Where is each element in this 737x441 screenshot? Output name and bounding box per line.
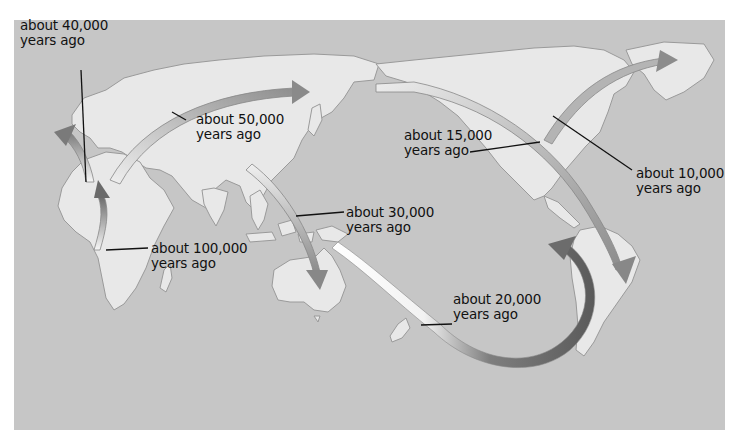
label-30k-line2: years ago <box>346 220 434 235</box>
label-15k: about 15,000 years ago <box>404 128 492 158</box>
label-50k-line1: about 50,000 <box>196 112 284 127</box>
label-10k: about 10,000 years ago <box>636 166 724 196</box>
label-15k-line2: years ago <box>404 143 492 158</box>
label-10k-line1: about 10,000 <box>636 166 724 181</box>
label-15k-line1: about 15,000 <box>404 128 492 143</box>
label-40k-line2: years ago <box>20 33 108 48</box>
label-20k: about 20,000 years ago <box>453 292 541 322</box>
label-50k-line2: years ago <box>196 127 284 142</box>
label-20k-line2: years ago <box>453 307 541 322</box>
label-20k-line1: about 20,000 <box>453 292 541 307</box>
southeast-asia <box>250 190 268 230</box>
label-30k: about 30,000 years ago <box>346 205 434 235</box>
label-100k-line2: years ago <box>151 256 247 271</box>
label-50k: about 50,000 years ago <box>196 112 284 142</box>
label-40k-line1: about 40,000 <box>20 18 108 33</box>
new-zealand <box>390 318 410 342</box>
label-100k: about 100,000 years ago <box>151 241 247 271</box>
greenland <box>626 42 714 100</box>
new-guinea <box>316 226 348 242</box>
label-10k-line2: years ago <box>636 181 724 196</box>
label-30k-line1: about 30,000 <box>346 205 434 220</box>
india <box>202 188 228 226</box>
label-40k: about 40,000 years ago <box>20 18 108 48</box>
central-america <box>544 196 580 228</box>
label-100k-line1: about 100,000 <box>151 241 247 256</box>
tasmania <box>314 316 320 322</box>
